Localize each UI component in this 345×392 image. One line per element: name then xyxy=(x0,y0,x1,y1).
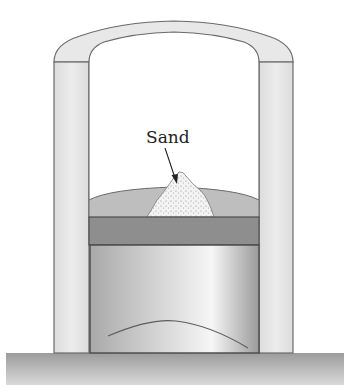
floor xyxy=(6,353,344,385)
sand-label: Sand xyxy=(146,127,190,147)
cylinder xyxy=(90,245,259,353)
piston-cylinder-diagram: Sand xyxy=(0,0,345,392)
piston-plate xyxy=(89,217,259,245)
